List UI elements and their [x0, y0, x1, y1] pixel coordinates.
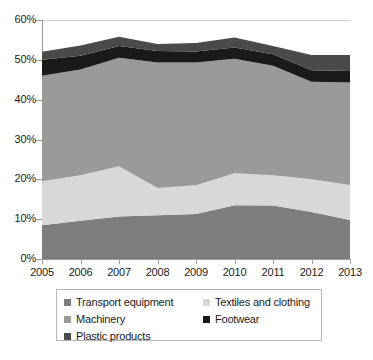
legend-label: Plastic products — [76, 330, 150, 342]
legend-item[interactable]: Machinery — [64, 311, 173, 327]
x-axis-tick-label: 2008 — [138, 266, 178, 278]
y-axis-tick-label: 10% — [2, 213, 36, 224]
y-axis-tick-label: 30% — [2, 134, 36, 145]
stacked-area-chart: 0%10%20%30%40%50%60% 2005200620072008200… — [0, 0, 373, 282]
legend-swatch-icon — [64, 333, 71, 340]
legend-column-2: Textiles and clothingFootwear — [203, 294, 310, 328]
legend-swatch-icon — [203, 299, 210, 306]
x-axis-tick-label: 2013 — [330, 266, 370, 278]
y-axis-tick-label: 60% — [2, 14, 36, 25]
legend-item[interactable]: Textiles and clothing — [203, 294, 310, 310]
legend-item[interactable]: Footwear — [203, 311, 310, 327]
x-axis-tick-label: 2009 — [176, 266, 216, 278]
legend-label: Transport equipment — [76, 296, 173, 308]
x-axis-tick — [196, 259, 197, 264]
chart-page: 0%10%20%30%40%50%60% 2005200620072008200… — [0, 0, 373, 360]
x-axis-tick-label: 2007 — [99, 266, 139, 278]
x-axis-tick-label: 2010 — [215, 266, 255, 278]
area-series-group — [42, 20, 350, 259]
y-axis-tick-label: 20% — [2, 173, 36, 184]
legend-swatch-icon — [64, 299, 71, 306]
x-axis-tick — [312, 259, 313, 264]
x-axis-tick — [273, 259, 274, 264]
x-axis-tick-label: 2005 — [22, 266, 62, 278]
x-axis-tick — [235, 259, 236, 264]
legend-item[interactable]: Plastic products — [64, 328, 173, 344]
chart-legend: Transport equipmentMachineryPlastic prod… — [56, 289, 322, 341]
y-axis-tick-label: 40% — [2, 94, 36, 105]
legend-label: Machinery — [76, 313, 125, 325]
y-axis-labels: 0%10%20%30%40%50%60% — [0, 0, 36, 282]
legend-label: Footwear — [215, 313, 259, 325]
x-axis-tick — [42, 259, 43, 264]
y-axis-tick-label: 0% — [2, 253, 36, 264]
plot-area — [42, 20, 350, 259]
x-axis-tick — [119, 259, 120, 264]
x-axis-tick — [350, 259, 351, 264]
legend-item[interactable]: Transport equipment — [64, 294, 173, 310]
legend-swatch-icon — [203, 316, 210, 323]
x-axis-tick-label: 2012 — [292, 266, 332, 278]
x-axis-tick-label: 2006 — [61, 266, 101, 278]
x-axis-tick — [158, 259, 159, 264]
legend-swatch-icon — [64, 316, 71, 323]
legend-label: Textiles and clothing — [215, 296, 310, 308]
x-axis-tick — [81, 259, 82, 264]
legend-column-1: Transport equipmentMachineryPlastic prod… — [64, 294, 173, 345]
x-axis-tick-label: 2011 — [253, 266, 293, 278]
y-axis-tick-label: 50% — [2, 54, 36, 65]
